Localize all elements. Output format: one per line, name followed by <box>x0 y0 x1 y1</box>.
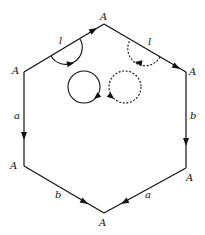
edge-label-top-left: l <box>59 35 62 46</box>
arrow-icon-right <box>183 138 189 146</box>
arrow-icon-bottom-right <box>120 197 130 206</box>
vertex-label-lower-left: A <box>9 160 17 171</box>
vertex-label-upper-right: A <box>188 66 196 77</box>
edge-label-bottom-left: b <box>55 189 61 200</box>
circle-loops <box>68 71 141 103</box>
vertex-label-top: A <box>99 11 107 22</box>
edge-label-right: b <box>190 110 196 121</box>
arrow-icon-dashed-half-loop <box>134 59 142 66</box>
dashed-half-loop <box>128 40 160 66</box>
dashed-circle-loop <box>109 71 141 103</box>
hexagon-edges <box>24 24 186 213</box>
arrow-icon-bottom-left <box>80 197 90 206</box>
vertex-label-lower-right: A <box>185 172 193 183</box>
edge-label-bottom-right: a <box>145 189 151 200</box>
vertex-label-upper-left: A <box>11 65 19 76</box>
hexagon-diagram: A A A A A A l l a b b a <box>0 0 205 235</box>
edge-labels: l l a b b a <box>14 35 196 200</box>
solid-half-loop <box>51 39 82 64</box>
arrow-icon-top-left <box>89 25 99 34</box>
edge-label-top-right: l <box>148 36 151 47</box>
arrow-icon-left <box>21 132 27 140</box>
arrow-icon-solid-half-loop <box>67 60 75 67</box>
vertex-labels: A A A A A A <box>9 11 196 228</box>
edge-bottom-left <box>24 166 104 213</box>
edge-label-left: a <box>14 110 20 121</box>
arrow-icon-dashed-circle <box>107 92 116 101</box>
half-loops <box>51 39 160 67</box>
vertex-label-bottom: A <box>98 217 106 228</box>
